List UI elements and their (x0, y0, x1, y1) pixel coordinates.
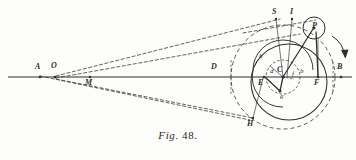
point-label-E: E (258, 79, 263, 87)
point-label-M: M (85, 79, 92, 87)
point-label-P: P (312, 22, 317, 30)
point-B-marker (340, 76, 343, 79)
point-label-g: g (280, 93, 284, 100)
figure-caption: Fig. 48. (0, 129, 356, 141)
point-label-C: C (277, 66, 282, 74)
point-label-h: h (259, 53, 263, 60)
point-S-marker (275, 18, 277, 20)
point-I-marker (291, 18, 293, 20)
point-label-H: H (247, 120, 253, 128)
point-label-O: O (51, 62, 57, 70)
point-label-F: F (314, 79, 319, 87)
point-O-marker (54, 76, 57, 79)
figure-caption-number: 48. (182, 129, 198, 141)
point-E-marker (263, 76, 266, 79)
point-C-marker (281, 75, 284, 78)
rod-C-to-g (280, 77, 283, 91)
point-label-b: b (300, 68, 304, 75)
tangent-line-upper-inner (56, 34, 300, 78)
tangent-line-upper-outer (56, 19, 280, 76)
point-label-f: f (292, 71, 294, 78)
tangent-line-lower-secondary (40, 76, 250, 120)
point-label-B: B (337, 63, 342, 71)
point-label-I: I (290, 8, 293, 16)
point-label-d: d (270, 68, 274, 75)
figure-container: A O M D S I P h d C f b E g F B H Fig. 4… (0, 0, 356, 160)
rotation-arrow-head (341, 50, 349, 59)
point-label-A: A (35, 63, 40, 71)
point-A-marker (39, 76, 42, 79)
point-label-D: D (211, 63, 217, 71)
clockwise-rotation-arrow (332, 36, 349, 59)
vertical-line-I (287, 19, 292, 77)
point-label-S: S (272, 8, 276, 16)
figure-caption-word: Fig. (158, 129, 178, 141)
rod-g-to-E (266, 78, 280, 91)
